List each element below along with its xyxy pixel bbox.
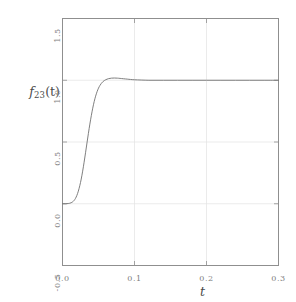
x-tick-label: 0.2 <box>187 274 227 283</box>
figure-container: f23(t) t 0.00.10.20.3 -0.50.00.51.01.5 <box>0 0 295 302</box>
y-tick-label: -0.5 <box>52 265 61 299</box>
plot-canvas <box>0 0 295 302</box>
x-tick-label: 0.3 <box>259 274 296 283</box>
y-tick-label: 1.0 <box>52 80 61 114</box>
x-tick-label: 0.1 <box>115 274 155 283</box>
x-axis-label-text: t <box>200 284 205 299</box>
y-axis-label: f23(t) <box>2 86 60 100</box>
x-tick-label: 0.0 <box>43 274 83 283</box>
figure-background <box>0 0 295 302</box>
y-tick-label: 0.0 <box>52 203 61 237</box>
y-tick-label: 0.5 <box>52 142 61 176</box>
x-axis-label: t <box>0 286 295 299</box>
y-axis-label-subscript: 23 <box>34 90 45 100</box>
y-tick-label: 1.5 <box>52 18 61 52</box>
